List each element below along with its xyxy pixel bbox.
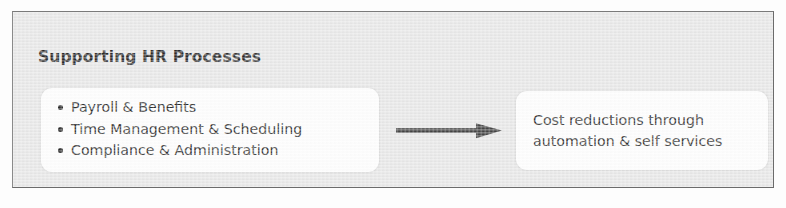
process-box: Payroll & Benefits Time Management & Sch… bbox=[41, 88, 379, 172]
bullet-icon bbox=[58, 127, 63, 132]
list-item: Payroll & Benefits bbox=[57, 97, 379, 119]
list-item-label: Time Management & Scheduling bbox=[71, 121, 302, 137]
list-item-label: Compliance & Administration bbox=[71, 142, 278, 158]
scanned-page: Supporting HR Processes Payroll & Benefi… bbox=[0, 0, 786, 208]
list-item: Time Management & Scheduling bbox=[57, 119, 379, 141]
list-item: Compliance & Administration bbox=[57, 140, 379, 162]
outcome-box: Cost reductions through automation & sel… bbox=[516, 91, 768, 170]
outcome-line: Cost reductions through bbox=[533, 110, 768, 131]
list-item-label: Payroll & Benefits bbox=[71, 99, 196, 115]
arrow-right-icon bbox=[396, 118, 502, 144]
outcome-text: Cost reductions through automation & sel… bbox=[516, 91, 768, 152]
process-list: Payroll & Benefits Time Management & Sch… bbox=[41, 88, 379, 162]
panel-title: Supporting HR Processes bbox=[38, 48, 261, 66]
outcome-line: automation & self services bbox=[533, 131, 768, 152]
diagram-panel: Supporting HR Processes Payroll & Benefi… bbox=[12, 11, 774, 188]
bullet-icon bbox=[58, 148, 63, 153]
bullet-icon bbox=[58, 105, 63, 110]
